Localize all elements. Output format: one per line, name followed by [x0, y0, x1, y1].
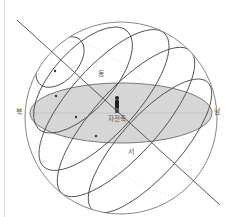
arrow-marker — [95, 135, 97, 137]
label-west: 서 — [128, 149, 134, 156]
arrow-marker — [55, 95, 57, 97]
arrow-marker — [75, 116, 77, 118]
label-south: 남 — [214, 109, 220, 116]
label-east: 동 — [98, 71, 104, 78]
label-axis: 자전축 — [108, 116, 126, 123]
celestial-sphere-diagram: 북 남 동 서 자전축 — [0, 0, 233, 217]
diagram-canvas — [0, 0, 233, 217]
label-north: 북 — [16, 109, 22, 116]
arrow-marker — [54, 70, 56, 72]
